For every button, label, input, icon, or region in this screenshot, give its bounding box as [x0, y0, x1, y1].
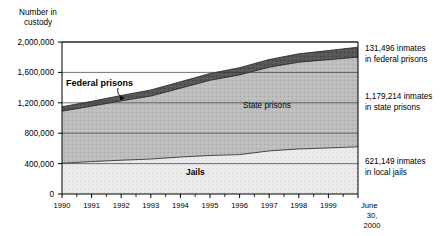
jails-label: Jails	[186, 167, 205, 177]
x-tick-label-1994: 1994	[172, 201, 189, 210]
x-tick-label-1991: 1991	[83, 201, 100, 210]
x-tick-label-1998: 1998	[290, 201, 307, 210]
annotation-2-line1: 1,179,214 inmates	[365, 92, 432, 101]
annotation-1-line2: in federal prisons	[365, 55, 427, 64]
y-tick-label-0: 0	[49, 190, 54, 199]
x-axis-end-label-line2: 30,	[367, 211, 378, 220]
plot-area	[62, 42, 358, 194]
chart-figure: Number in custody 0400,000800,0001,200,0…	[0, 0, 444, 236]
x-tick-label-1996: 1996	[231, 201, 248, 210]
x-axis-end-label-line1: June	[361, 201, 377, 210]
y-axis-title-line1: Number in	[19, 8, 57, 17]
custody-area-chart: Number in custody 0400,000800,0001,200,0…	[0, 0, 444, 236]
y-tick-label-800000: 800,000	[24, 129, 54, 138]
annotation-3-line2: in local jails	[365, 168, 407, 177]
x-tick-label-1999: 1999	[320, 201, 337, 210]
federal-prisons-label: Federal prisons	[66, 78, 133, 88]
annotation-1-line1: 131,496 inmates	[365, 44, 426, 53]
x-tick-label-1997: 1997	[261, 201, 278, 210]
x-tick-label-1993: 1993	[142, 201, 159, 210]
annotation-2-line2: in state prisons	[365, 103, 420, 112]
x-tick-label-1995: 1995	[202, 201, 219, 210]
annotation-3-line1: 621,149 inmates	[365, 157, 426, 166]
x-axis-end-label-line3: 2000	[364, 221, 381, 230]
x-tick-label-1992: 1992	[113, 201, 130, 210]
y-tick-label-2000000: 2,000,000	[18, 38, 55, 47]
y-tick-label-1200000: 1,200,000	[18, 99, 55, 108]
y-axis-title-line2: custody	[24, 18, 53, 27]
y-tick-label-1600000: 1,600,000	[18, 68, 55, 77]
x-tick-label-1990: 1990	[54, 201, 71, 210]
state-prisons-label: State prisons	[243, 101, 291, 110]
y-tick-label-400000: 400,000	[24, 160, 54, 169]
